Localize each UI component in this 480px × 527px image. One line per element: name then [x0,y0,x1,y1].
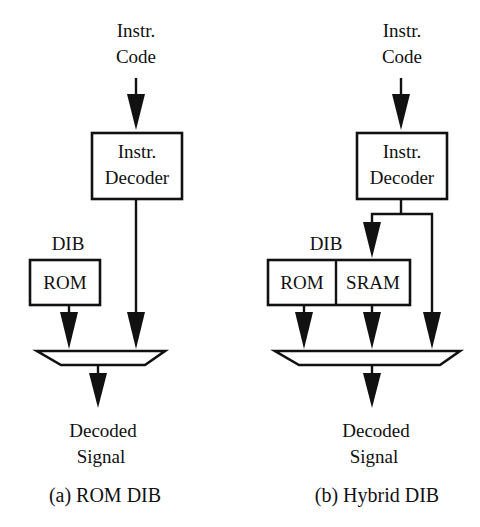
panel-b-decoder-label-line1: Instr. [383,141,422,162]
panel-a-rom-dib: Instr. Code Instr. Decoder DIB ROM [30,20,182,507]
panel-a-input-label-line1: Instr. [117,20,156,41]
panel-a-rom-arrow-icon [60,305,78,349]
panel-b-output-arrow-icon [363,365,381,408]
panel-a-decoder-output-arrow-icon [127,199,145,349]
panel-b-decoder-label-line2: Decoder [370,167,435,188]
panel-a-output-arrow-icon [89,365,107,408]
panel-b-sram-label: SRAM [346,272,400,293]
panel-b-output-label-line2: Signal [350,446,399,467]
panel-a-decoder-label-line1: Instr. [118,141,157,162]
panel-b-caption: (b) Hybrid DIB [315,484,439,507]
panel-b-input-label-line2: Code [382,46,422,67]
panel-b-mux-shape [275,351,460,365]
panel-b-hybrid-dib: Instr. Code Instr. Decoder DIB ROM SRAM [268,20,460,507]
panel-b-output-label-line1: Decoded [342,420,410,441]
panel-b-dib-label: DIB [310,233,343,254]
panel-a-dib-label: DIB [52,233,85,254]
panel-a-caption: (a) ROM DIB [49,484,161,507]
panel-a-mux-shape [37,351,165,365]
panel-b-input-arrow-icon [392,78,410,130]
panel-b-decoder-output-arrow-icon [423,312,441,349]
panel-b-input-label-line1: Instr. [383,20,422,41]
panel-a-output-label-line2: Signal [77,446,126,467]
panel-a-output-label-line1: Decoded [69,420,137,441]
panel-a-rom-label: ROM [43,272,86,293]
panel-a-input-arrow-icon [127,78,145,130]
panel-b-rom-label: ROM [280,272,323,293]
dib-diagram: Instr. Code Instr. Decoder DIB ROM [0,0,480,527]
panel-a-input-label-line2: Code [116,46,156,67]
panel-a-decoder-label-line2: Decoder [105,167,170,188]
panel-b-sram-write-arrow-icon [363,222,381,258]
panel-b-rom-arrow-icon [295,305,313,349]
panel-b-sram-arrow-icon [363,305,381,349]
